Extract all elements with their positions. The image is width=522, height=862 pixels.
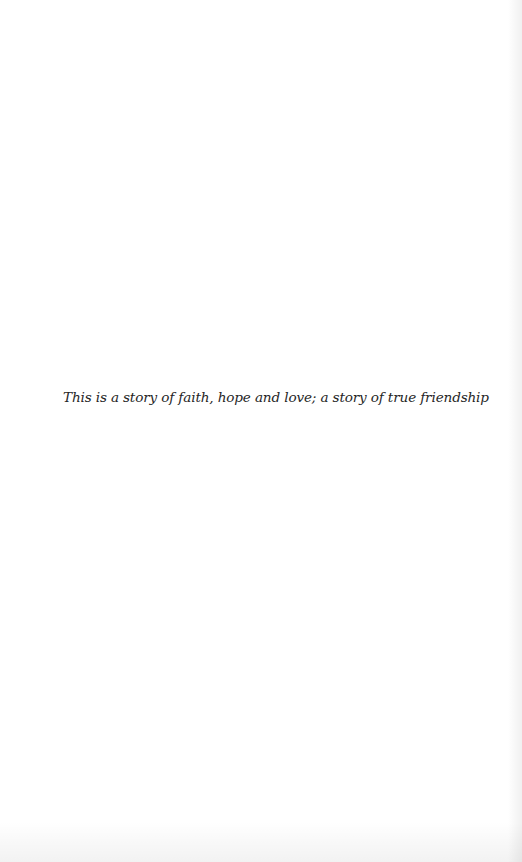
- page-edge-shadow-right: [508, 0, 522, 862]
- document-page: This is a story of faith, hope and love;…: [0, 0, 522, 862]
- page-edge-shadow-bottom: [0, 822, 522, 862]
- dedication-epigraph: This is a story of faith, hope and love;…: [63, 387, 489, 407]
